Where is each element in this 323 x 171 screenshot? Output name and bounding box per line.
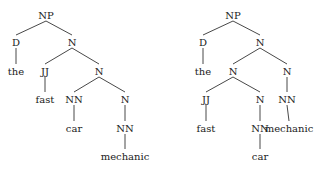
tree-node-nn1: NN bbox=[65, 94, 83, 105]
tree-node-fast: fast bbox=[36, 94, 55, 105]
parse-trees-svg: NPDNtheJJNfastNNNcarNNmechanicNPDNtheNNJ… bbox=[0, 0, 323, 171]
tree-node-n1: N bbox=[68, 37, 77, 48]
tree-edge bbox=[287, 105, 289, 121]
tree-left: NPDNtheJJNfastNNNcarNNmechanic bbox=[8, 10, 150, 162]
tree-node-jj: JJ bbox=[40, 66, 49, 77]
tree-node-n3: N bbox=[283, 66, 292, 77]
tree-edge bbox=[233, 21, 260, 35]
tree-node-n4: N bbox=[256, 94, 265, 105]
tree-node-np: NP bbox=[38, 10, 54, 21]
tree-node-jj: JJ bbox=[201, 94, 210, 105]
tree-edge bbox=[72, 48, 99, 64]
tree-edge bbox=[16, 21, 46, 35]
tree-node-nn2: NN bbox=[116, 123, 134, 134]
tree-node-fast: fast bbox=[197, 123, 216, 134]
parse-tree-diagram: NPDNtheJJNfastNNNcarNNmechanicNPDNtheNNJ… bbox=[0, 0, 323, 171]
tree-node-np: NP bbox=[225, 10, 241, 21]
tree-edge bbox=[46, 21, 72, 35]
tree-edge bbox=[260, 48, 287, 64]
tree-edge bbox=[74, 77, 99, 92]
tree-edge bbox=[206, 77, 233, 92]
tree-node-car: car bbox=[66, 123, 83, 134]
tree-edge bbox=[233, 77, 260, 92]
tree-node-car: car bbox=[252, 151, 269, 162]
tree-node-the: the bbox=[195, 66, 211, 77]
tree-node-the: the bbox=[8, 66, 24, 77]
tree-edge bbox=[203, 21, 233, 35]
tree-right: NPDNtheNNJJNNNfastNNmechaniccar bbox=[195, 10, 314, 162]
tree-node-n3: N bbox=[121, 94, 130, 105]
tree-edge bbox=[45, 48, 72, 64]
tree-edge bbox=[99, 77, 125, 92]
tree-node-mechanic: mechanic bbox=[265, 123, 314, 134]
tree-edge bbox=[233, 48, 260, 64]
tree-node-mechanic: mechanic bbox=[101, 151, 150, 162]
tree-node-d: D bbox=[199, 37, 207, 48]
tree-node-nn1: NN bbox=[278, 94, 296, 105]
tree-node-n2: N bbox=[229, 66, 238, 77]
tree-node-d: D bbox=[12, 37, 20, 48]
tree-node-n2: N bbox=[95, 66, 104, 77]
tree-node-n1: N bbox=[256, 37, 265, 48]
